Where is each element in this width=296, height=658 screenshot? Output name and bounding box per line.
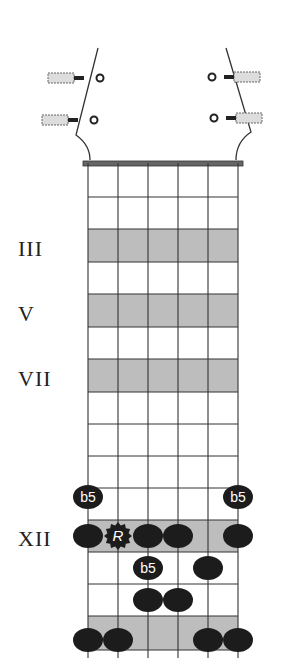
- tuner-post-icon: [226, 116, 236, 120]
- fretboard-graphic: IIIVVIIXIIb5b5Rb5: [0, 0, 296, 658]
- note-dot: [193, 628, 223, 652]
- note-dot: [223, 628, 253, 652]
- inlay-fret-5: [88, 294, 238, 327]
- string-peg-icon: [97, 75, 104, 82]
- note-label: b5: [230, 489, 246, 505]
- fret-marker-label: XII: [18, 526, 52, 551]
- fret-marker-label: VII: [18, 366, 52, 391]
- note-dot: [73, 628, 103, 652]
- headstock-right-edge: [226, 48, 251, 160]
- tuner-post-icon: [74, 76, 84, 80]
- tuner-key-icon: [234, 72, 260, 82]
- fretboard-diagram: IIIVVIIXIIb5b5Rb5: [0, 0, 296, 658]
- tuner-post-icon: [68, 118, 78, 122]
- note-dot: [163, 588, 193, 612]
- note-dot: [133, 524, 163, 548]
- fret-marker-label: V: [18, 301, 35, 326]
- note-label: R: [113, 527, 124, 544]
- note-dot: [193, 556, 223, 580]
- note-dot: [73, 524, 103, 548]
- note-dot: [133, 588, 163, 612]
- note-dot: [103, 628, 133, 652]
- note-dot: [223, 524, 253, 548]
- nut: [83, 161, 243, 166]
- inlay-fret-7: [88, 359, 238, 392]
- tuner-key-icon: [236, 113, 262, 123]
- note-dot: [163, 524, 193, 548]
- note-label: b5: [80, 489, 96, 505]
- fret-marker-label: III: [18, 236, 43, 261]
- tuner-key-icon: [48, 73, 74, 83]
- string-peg-icon: [211, 115, 218, 122]
- note-label: b5: [140, 560, 156, 576]
- string-peg-icon: [209, 74, 216, 81]
- inlay-fret-3: [88, 229, 238, 262]
- string-peg-icon: [91, 117, 98, 124]
- tuner-post-icon: [224, 75, 234, 79]
- tuner-key-icon: [42, 115, 68, 125]
- headstock-left-edge: [76, 48, 98, 160]
